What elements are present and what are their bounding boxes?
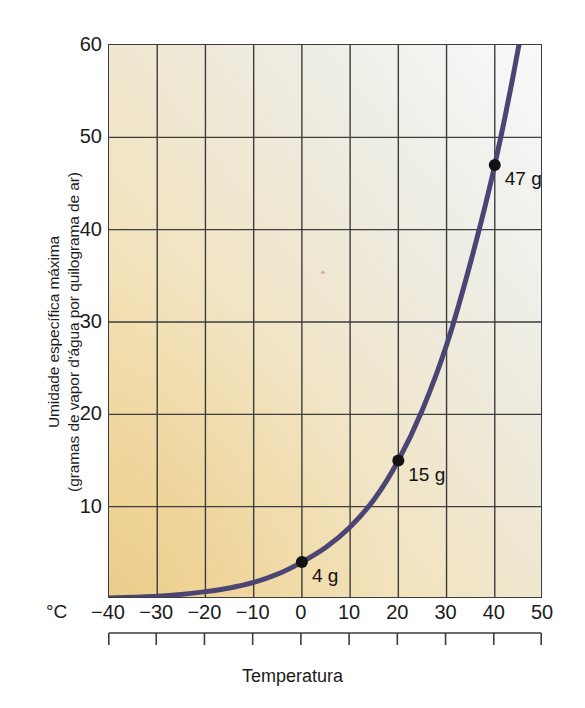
plot-area: 4 g15 g47 g — [108, 44, 542, 598]
annotation-label: 47 g — [505, 169, 542, 188]
x-axis-ruler — [108, 632, 542, 648]
annotation-label: 4 g — [312, 566, 338, 585]
x-axis-tick-labels: °C −40−30−20−1001020304050 — [0, 600, 585, 628]
x-axis-title: Temperatura — [0, 666, 585, 687]
y-tick-label: 20 — [56, 403, 102, 423]
x-tick-label: 50 — [512, 600, 572, 624]
y-tick-label: 30 — [56, 311, 102, 331]
y-tick-label: 60 — [56, 34, 102, 54]
saturation-curve — [109, 45, 542, 598]
y-tick-label: 40 — [56, 219, 102, 239]
humidity-chart-figure: Umidade específica máxima (gramas de vap… — [0, 0, 585, 708]
annotation-label: 15 g — [408, 465, 445, 484]
y-tick-label: 50 — [56, 126, 102, 146]
y-tick-label: 10 — [56, 496, 102, 516]
celsius-unit-label: °C — [46, 600, 67, 624]
